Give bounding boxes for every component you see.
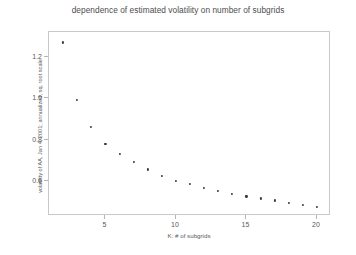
data-point <box>147 168 149 170</box>
plot-area <box>48 31 330 215</box>
x-axis-title: K: # of subgrids <box>48 232 330 239</box>
x-tick-mark <box>245 215 246 219</box>
data-point <box>245 195 247 197</box>
y-axis-title-container: volatility of AA, Jan 4, 2001; annualize… <box>18 31 32 215</box>
x-tick-label: 20 <box>312 221 320 228</box>
data-point <box>161 175 163 177</box>
data-point <box>118 153 120 155</box>
data-point <box>259 197 261 199</box>
data-point <box>62 41 64 43</box>
data-point <box>133 161 135 163</box>
data-point <box>175 180 177 182</box>
y-axis-title: volatility of AA, Jan 4, 2001; annualize… <box>37 36 43 216</box>
data-point <box>302 204 304 206</box>
scatter-series <box>49 32 329 214</box>
data-point <box>90 126 92 128</box>
x-axis: 5101520 <box>48 215 330 245</box>
x-tick-label: 5 <box>102 221 106 228</box>
chart-title: dependence of estimated volatility on nu… <box>0 5 356 15</box>
data-point <box>316 206 318 208</box>
chart-figure: dependence of estimated volatility on nu… <box>0 0 356 255</box>
data-point <box>203 187 205 189</box>
data-point <box>274 199 276 201</box>
x-tick-label: 10 <box>171 221 179 228</box>
data-point <box>189 183 191 185</box>
x-tick-mark <box>316 215 317 219</box>
data-point <box>217 190 219 192</box>
data-point <box>104 143 106 145</box>
x-tick-mark <box>175 215 176 219</box>
data-point <box>76 99 78 101</box>
data-point <box>288 201 290 203</box>
x-tick-mark <box>104 215 105 219</box>
x-tick-label: 15 <box>241 221 249 228</box>
data-point <box>231 193 233 195</box>
